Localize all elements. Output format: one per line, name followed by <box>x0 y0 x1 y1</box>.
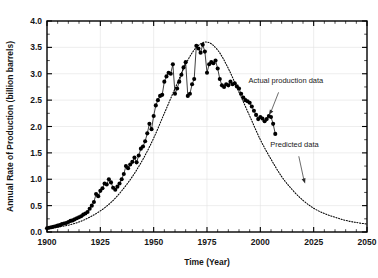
data-point <box>254 113 258 117</box>
data-point <box>216 66 220 70</box>
data-point <box>122 172 126 176</box>
y-tick-label: 2.5 <box>30 95 42 105</box>
y-tick-label: 0.0 <box>30 227 42 237</box>
y-axis-title: Annual Rate of Production (billion barre… <box>5 41 15 212</box>
x-axis-title: Time (Year) <box>184 257 230 267</box>
data-point <box>173 92 177 96</box>
data-point <box>273 132 277 136</box>
data-point <box>213 59 217 63</box>
data-point <box>100 186 104 190</box>
data-point <box>184 60 188 64</box>
data-point <box>188 92 192 96</box>
x-tick-label: 1975 <box>198 237 217 247</box>
data-point <box>248 101 252 105</box>
data-point <box>201 43 205 47</box>
data-point <box>239 92 243 96</box>
data-point <box>190 82 194 86</box>
x-tick-label: 1925 <box>91 237 110 247</box>
x-tick-label: 2050 <box>358 237 377 247</box>
y-tick-label: 2.0 <box>30 122 42 132</box>
data-point <box>271 122 275 126</box>
data-point <box>181 65 185 69</box>
data-point <box>117 181 121 185</box>
data-point <box>135 160 139 164</box>
data-point <box>160 93 164 97</box>
data-point <box>192 77 196 81</box>
data-point <box>177 80 181 84</box>
y-tick-label: 0.5 <box>30 201 42 211</box>
data-point <box>96 194 100 198</box>
y-tick-label: 3.0 <box>30 69 42 79</box>
data-point <box>126 166 130 170</box>
y-tick-label: 4.0 <box>30 16 42 26</box>
data-point <box>269 115 273 119</box>
data-point <box>105 182 109 186</box>
data-point <box>205 71 209 75</box>
data-point <box>169 72 173 76</box>
data-point <box>109 180 113 184</box>
y-tick-labels-group: 0.00.51.01.52.02.53.03.54.0 <box>30 16 42 237</box>
data-point <box>143 139 147 143</box>
data-point <box>92 200 96 204</box>
data-point <box>203 50 207 54</box>
y-tick-label: 1.0 <box>30 174 42 184</box>
predicted-data-annotation-text: Predicted data <box>270 140 319 149</box>
data-point <box>156 98 160 102</box>
data-point <box>226 83 230 87</box>
data-point <box>141 144 145 148</box>
data-point <box>154 103 158 107</box>
data-point <box>130 160 134 164</box>
data-point <box>120 177 124 181</box>
x-tick-label: 1950 <box>144 237 163 247</box>
data-point <box>179 73 183 77</box>
data-point <box>90 204 94 208</box>
production-chart-svg: 1900192519501975200020252050 0.00.51.01.… <box>0 0 378 278</box>
data-point <box>132 156 136 160</box>
data-point <box>196 46 200 50</box>
x-tick-label: 2025 <box>304 237 323 247</box>
data-point <box>199 51 203 55</box>
data-point <box>162 80 166 84</box>
y-tick-label: 3.5 <box>30 42 42 52</box>
y-tick-label: 1.5 <box>30 148 42 158</box>
data-point <box>137 153 141 157</box>
x-tick-label: 2000 <box>251 237 270 247</box>
data-point <box>250 104 254 108</box>
data-point <box>218 77 222 81</box>
chart-figure: 1900192519501975200020252050 0.00.51.01.… <box>0 0 378 278</box>
data-point <box>149 127 153 131</box>
data-point <box>171 62 175 66</box>
actual-production-annotation-text: Actual production data <box>249 76 324 85</box>
data-point <box>152 114 156 118</box>
data-point <box>164 74 168 78</box>
x-tick-label: 1900 <box>38 237 57 247</box>
data-point <box>175 86 179 90</box>
data-point <box>147 122 151 126</box>
data-point <box>252 109 256 113</box>
data-point <box>145 131 149 135</box>
data-point <box>237 86 241 90</box>
